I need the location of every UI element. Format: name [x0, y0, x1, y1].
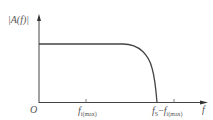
x-tick-label-fimax: fi(max) — [78, 105, 97, 118]
x-tick-label-fs-minus-fimax: fS−fi(max) — [152, 105, 183, 118]
y-axis-arrow-icon — [37, 14, 41, 21]
response-curve — [39, 44, 157, 103]
y-axis-label: |A(f)| — [8, 14, 29, 26]
origin-label: O — [30, 104, 37, 115]
amplitude-response-chart: |A(f)| O fi(max) fS−fi(max) f — [0, 0, 213, 120]
x-axis-label: f — [202, 104, 206, 115]
